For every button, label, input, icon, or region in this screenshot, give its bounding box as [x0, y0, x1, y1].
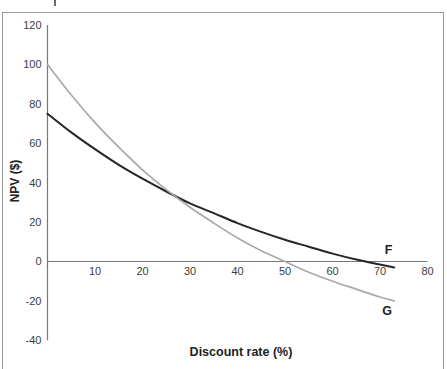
x-tick-label: 60 — [326, 265, 338, 277]
y-tick-label: 120 — [23, 19, 41, 31]
x-tick-label: 40 — [231, 265, 243, 277]
y-tick-label: 60 — [29, 137, 41, 149]
x-tick-label: 50 — [279, 265, 291, 277]
y-tick-label: 40 — [29, 177, 41, 189]
x-tick-label: 20 — [136, 265, 148, 277]
x-tick-label: 10 — [89, 265, 101, 277]
x-axis-title: Discount rate (%) — [190, 345, 293, 359]
y-tick-label: 20 — [29, 216, 41, 228]
y-tick-label: -20 — [26, 295, 42, 307]
curve-label-f: F — [385, 243, 393, 257]
y-tick-label: 80 — [29, 98, 41, 110]
curve-label-g: G — [382, 304, 392, 318]
y-tick-label: -40 — [26, 334, 42, 346]
x-tick-label: 80 — [421, 265, 433, 277]
y-tick-label: 100 — [23, 58, 41, 70]
y-axis-title: NPV ($) — [8, 160, 22, 203]
npv-profile-chart: 120100806040200-20-401020304050607080FG — [0, 0, 447, 369]
y-tick-label: 0 — [35, 255, 41, 267]
x-tick-label: 70 — [374, 265, 386, 277]
x-tick-label: 30 — [184, 265, 196, 277]
npv-profile-figure: 120100806040200-20-401020304050607080FG … — [0, 0, 447, 369]
curve-f — [48, 114, 395, 268]
